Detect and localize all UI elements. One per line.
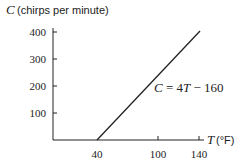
y-tick-label: 100 — [30, 107, 47, 119]
y-axis-variable: C — [6, 2, 15, 17]
y-tick-label: 200 — [30, 80, 47, 92]
x-tick-label: 40 — [92, 148, 104, 160]
equation-annotation: C = 4T − 160 — [154, 80, 224, 95]
y-tick-label: 400 — [30, 26, 47, 38]
y-axis-unit: (chirps per minute) — [17, 4, 109, 16]
x-tick-label: 140 — [191, 148, 208, 160]
chart: C (chirps per minute) 100 200 300 400 40… — [0, 0, 250, 166]
x-axis-variable: T — [207, 132, 215, 147]
x-axis-unit: (°F) — [216, 134, 234, 146]
y-tick-label: 300 — [30, 53, 47, 65]
x-tick-label: 100 — [150, 148, 167, 160]
